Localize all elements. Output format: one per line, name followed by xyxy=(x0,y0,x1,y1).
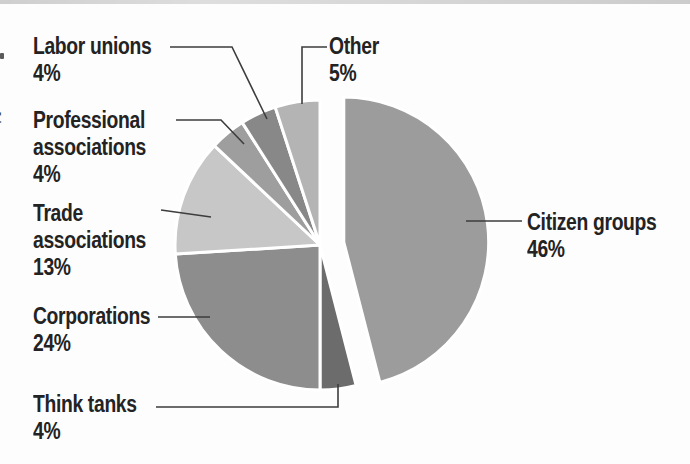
label-other-name: Other xyxy=(329,33,379,60)
leader-line-labor-unions xyxy=(170,47,267,119)
label-trade-line1: Trade xyxy=(33,200,146,227)
leader-line-other xyxy=(302,47,327,104)
label-corporations-pct: 24% xyxy=(33,330,150,357)
label-trade-associations: Trade associations 13% xyxy=(33,200,146,281)
label-trade-line2: associations xyxy=(33,227,146,254)
label-think-tanks-pct: 4% xyxy=(33,418,137,445)
pie-slices-group xyxy=(175,97,489,390)
label-trade-pct: 13% xyxy=(33,254,146,281)
label-citizen-groups: Citizen groups 46% xyxy=(527,209,656,263)
label-labor-unions-pct: 4% xyxy=(33,60,151,87)
pie-slice-citizen-groups xyxy=(344,97,489,382)
label-professional-associations: Professional associations 4% xyxy=(33,107,146,188)
label-professional-pct: 4% xyxy=(33,161,146,188)
label-citizen-groups-pct: 46% xyxy=(527,236,656,263)
label-corporations: Corporations 24% xyxy=(33,303,150,357)
label-other: Other 5% xyxy=(329,33,379,87)
label-labor-unions: Labor unions 4% xyxy=(33,33,151,87)
label-corporations-name: Corporations xyxy=(33,303,150,330)
label-other-pct: 5% xyxy=(329,60,379,87)
label-professional-line2: associations xyxy=(33,134,146,161)
pie-chart-figure: c Labor unions 4% Professional associati… xyxy=(0,0,690,464)
label-citizen-groups-name: Citizen groups xyxy=(527,209,656,236)
label-professional-line1: Professional xyxy=(33,107,146,134)
label-labor-unions-name: Labor unions xyxy=(33,33,151,60)
label-think-tanks: Think tanks 4% xyxy=(33,391,137,445)
label-think-tanks-name: Think tanks xyxy=(33,391,137,418)
